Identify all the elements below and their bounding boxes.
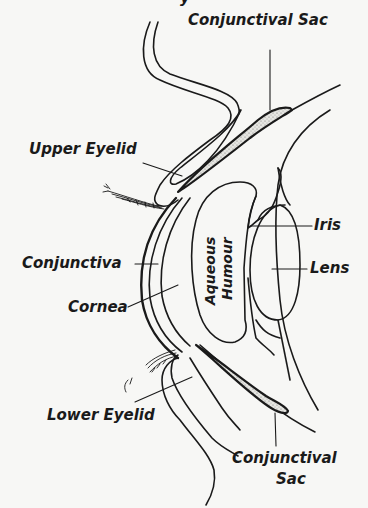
label-conjunctival-sac-bottom-line1: Conjunctival xyxy=(232,451,337,466)
upper-eyelid-inner-outline xyxy=(154,22,240,114)
lens xyxy=(250,205,300,320)
label-upper-eyelid: Upper Eyelid xyxy=(29,142,137,157)
label-conjunctival-sac-top: Conjunctival Sac xyxy=(188,13,328,28)
cornea-outer xyxy=(149,198,182,352)
leader-cornea xyxy=(128,285,178,307)
conjunctiva-outer xyxy=(141,198,178,358)
label-aqueous: Aqueous xyxy=(203,237,217,305)
label-iris: Iris xyxy=(314,218,341,233)
leader-conjunctival-sac-bottom xyxy=(275,413,276,446)
label-conjunctival-sac-bottom-line2: Sac xyxy=(276,472,306,487)
label-conjunctiva: Conjunctiva xyxy=(22,256,122,271)
top-cut-text: y xyxy=(180,0,190,6)
sclera-bottom xyxy=(200,345,315,432)
label-lower-eyelid: Lower Eyelid xyxy=(47,408,155,423)
label-humour: Humour xyxy=(220,237,234,300)
leader-upper-eyelid xyxy=(143,163,182,176)
lower-eyelashes xyxy=(125,350,177,392)
leader-lower-eyelid xyxy=(135,377,192,402)
sclera-outer xyxy=(292,85,340,110)
eye-diagram: Conjunctival Sac Upper Eyelid Iris Lens … xyxy=(0,0,368,508)
label-cornea: Cornea xyxy=(68,300,128,315)
label-lens: Lens xyxy=(310,261,349,276)
